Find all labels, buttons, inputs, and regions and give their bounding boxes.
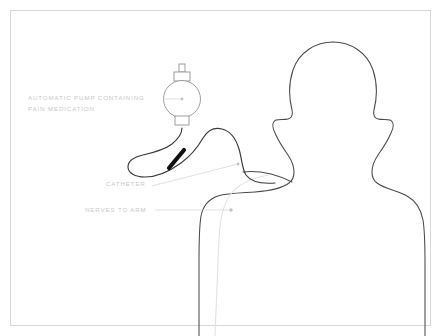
leader-dot-catheter [237,163,240,166]
head-and-right-body-outline [333,42,425,336]
border-frame [11,11,431,326]
pump-cap [174,72,190,81]
needle-insertion [169,150,184,168]
labels-group: AUTOMATIC PUMP CONTAINING PAIN MEDICATIO… [28,94,147,213]
head-and-left-body-outline [199,42,333,336]
label-nerves-to-arm: NERVES TO ARM [85,206,147,213]
catheter-tubing [128,128,275,183]
label-automatic-pump-line2: PAIN MEDICATION [28,105,95,112]
pump-stem [179,64,185,72]
leader-line-catheter [152,164,238,186]
pump-connector [175,116,189,125]
medical-diagram-illustration: AUTOMATIC PUMP CONTAINING PAIN MEDICATIO… [0,0,441,336]
leader-dot-pump [181,98,184,101]
leader-dot-nerves [229,208,232,211]
human-body-silhouette [199,42,425,336]
pump-device[interactable] [164,64,201,125]
nerve-pathway [215,175,268,336]
label-catheter: CATHETER [106,180,146,187]
diagram-canvas: AUTOMATIC PUMP CONTAINING PAIN MEDICATIO… [0,0,441,336]
label-automatic-pump-line1: AUTOMATIC PUMP CONTAINING [28,94,145,101]
